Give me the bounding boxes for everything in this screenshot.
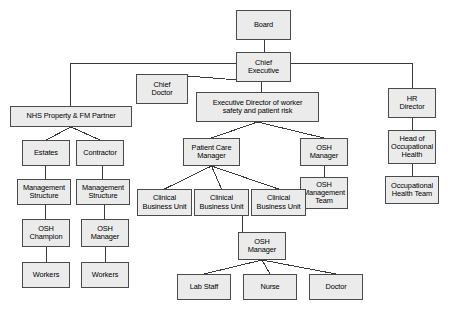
connector-exec_director-to-patient_care_mgr <box>212 122 258 138</box>
node-label: Contractor <box>83 149 117 157</box>
node-workers_1: Workers <box>22 262 70 288</box>
node-mgmt_structure_1: Management Structure <box>17 179 71 205</box>
node-label: Workers <box>33 271 60 279</box>
connector-osh_manager_bottom-to-doctor <box>262 260 336 274</box>
node-label: Board <box>254 21 273 29</box>
node-head_occ_health: Head of Occupational Health <box>388 130 436 164</box>
connector-nhs_property-to-estates <box>46 127 71 140</box>
node-label: Lab Staff <box>190 283 219 291</box>
node-chief_doctor: Chief Doctor <box>136 74 188 104</box>
node-mgmt_structure_2: Management Structure <box>76 179 130 205</box>
node-workers_2: Workers <box>81 262 129 288</box>
node-label: NHS Property & FM Partner <box>26 112 115 120</box>
node-doctor: Doctor <box>309 274 363 300</box>
node-osh_mgmt_team: OSH Management Team <box>300 177 348 209</box>
node-label: Clinical Business Unit <box>200 194 244 211</box>
node-label: OSH Manager <box>91 225 119 242</box>
node-patient_care_mgr: Patient Care Manager <box>183 138 240 166</box>
node-cbu_3: Clinical Business Unit <box>251 189 306 216</box>
node-label: Management Structure <box>82 184 124 201</box>
node-label: Chief Doctor <box>151 81 172 98</box>
node-cbu_1: Clinical Business Unit <box>137 189 192 216</box>
connector-patient_care_mgr-to-cbu_1 <box>165 166 212 189</box>
node-board: Board <box>236 10 291 40</box>
node-label: Clinical Business Unit <box>143 194 187 211</box>
connector-patient_care_mgr-to-cbu_2 <box>212 166 222 189</box>
node-occ_health_team: Occupational Health Team <box>385 176 439 204</box>
node-exec_director: Executive Director of worker safety and … <box>196 92 319 122</box>
node-osh_manager_right: OSH Manager <box>300 138 348 166</box>
node-label: Head of Occupational Health <box>391 135 433 160</box>
node-chief_executive: Chief Executive <box>236 52 291 82</box>
node-label: HR Director <box>399 95 424 112</box>
connector-osh_manager_bottom-to-nurse <box>262 260 270 274</box>
node-osh_champion: OSH Champion <box>22 219 70 247</box>
connector-exec_director-to-osh_manager_right <box>258 122 325 138</box>
node-contractor: Contractor <box>76 140 124 166</box>
org-chart-diagram: BoardChief ExecutiveChief DoctorExecutiv… <box>0 0 451 310</box>
node-nhs_property: NHS Property & FM Partner <box>10 106 132 127</box>
node-label: OSH Manager <box>310 144 338 161</box>
node-estates: Estates <box>22 140 70 166</box>
node-label: Estates <box>34 149 58 157</box>
node-label: Executive Director of worker safety and … <box>213 99 303 116</box>
node-label: Management Structure <box>23 184 65 201</box>
node-label: Clinical Business Unit <box>257 194 301 211</box>
node-label: Occupational Health Team <box>391 182 433 199</box>
node-nurse: Nurse <box>243 274 297 300</box>
node-lab_staff: Lab Staff <box>177 274 231 300</box>
node-osh_manager_bottom: OSH Manager <box>238 232 286 260</box>
node-label: OSH Management Team <box>303 181 345 206</box>
connector-patient_care_mgr-to-cbu_3 <box>212 166 279 189</box>
node-cbu_2: Clinical Business Unit <box>194 189 249 216</box>
node-label: Chief Executive <box>248 59 279 76</box>
node-label: Patient Care Manager <box>192 144 232 161</box>
node-osh_manager_left: OSH Manager <box>81 219 129 247</box>
node-label: OSH Manager <box>248 238 276 255</box>
node-hr_director: HR Director <box>388 88 436 118</box>
node-label: OSH Champion <box>30 225 63 242</box>
connector-nhs_property-to-contractor <box>71 127 100 140</box>
connector-osh_manager_bottom-to-lab_staff <box>204 260 262 274</box>
node-label: Doctor <box>325 283 346 291</box>
node-label: Nurse <box>260 283 279 291</box>
node-label: Workers <box>92 271 119 279</box>
